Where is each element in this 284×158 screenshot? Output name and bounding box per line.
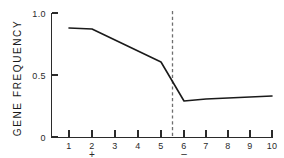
- x-tick-label-9: 9: [247, 141, 252, 151]
- x-tick-label-7: 7: [203, 141, 208, 151]
- y-tick-label-1.0: 1.0: [32, 9, 46, 19]
- y-tick-label-0: 0: [41, 133, 46, 143]
- gene-frequency-line: [69, 28, 272, 101]
- x-tick-label-10: 10: [267, 141, 278, 151]
- x-tick-label-3: 3: [112, 141, 117, 151]
- x-tick-label-4: 4: [135, 141, 140, 151]
- y-axis-title: GENE FREQUENCY: [12, 20, 23, 136]
- minus-sign-annotation: –: [181, 148, 187, 158]
- chart-canvas: 1.0 0.5 0 1 2 3 4 5 6 7 8 9 10 + – GENE …: [0, 0, 284, 158]
- x-tick-label-5: 5: [158, 141, 163, 151]
- y-tick-label-0.5: 0.5: [32, 71, 46, 81]
- plus-sign-annotation: +: [89, 149, 95, 158]
- x-tick-label-8: 8: [225, 141, 230, 151]
- gene-frequency-chart: 1.0 0.5 0 1 2 3 4 5 6 7 8 9 10 + – GENE …: [0, 0, 284, 158]
- x-tick-label-1: 1: [66, 141, 71, 151]
